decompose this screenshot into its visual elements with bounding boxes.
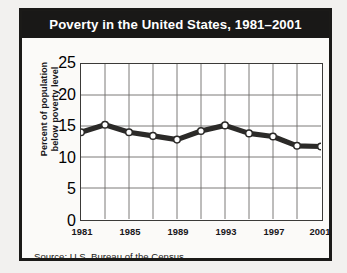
data-point-1985 [126,129,133,136]
chart-title-bar: Poverty in the United States, 1981–2001 [22,11,329,38]
x-tick-label-1997: 1997 [264,226,285,237]
data-point-1983 [102,122,109,129]
plot-svg [81,64,321,219]
source-note: Source: U.S. Bureau of the Census [34,251,184,262]
y-tick-label-20: 20 [52,89,76,101]
data-point-1991 [198,128,205,135]
x-tick-label-2001: 2001 [310,226,331,237]
x-axis-tick-labels: 1981 1985 1989 1993 1997 2001 [80,226,323,240]
y-axis-title-line-1: Percent of population [39,44,50,174]
chart-frame: Poverty in the United States, 1981–2001 … [19,8,332,261]
x-tick-label-1985: 1985 [120,226,141,237]
data-point-1989 [174,136,181,143]
page-title: Poverty in the United States, 1981–2001 [49,17,301,32]
data-point-1995 [246,130,253,137]
plot-area [80,63,323,221]
x-tick-label-1993: 1993 [216,226,237,237]
poverty-chart-figure: Poverty in the United States, 1981–2001 … [0,0,347,273]
gridlines-vertical [105,64,297,219]
data-point-1981 [81,129,84,136]
data-point-1997 [270,133,277,140]
chart-body: Percent of population below poverty leve… [22,38,329,258]
data-point-1999 [294,143,301,150]
data-point-2001 [318,143,321,150]
data-point-1993 [222,122,229,129]
y-tick-label-15: 15 [52,120,76,132]
x-tick-label-1981: 1981 [72,226,93,237]
data-point-1987 [150,133,157,140]
x-tick-label-1989: 1989 [168,226,189,237]
y-tick-label-5: 5 [52,183,76,195]
y-tick-label-25: 25 [52,57,76,69]
y-tick-label-10: 10 [52,152,76,164]
y-axis-tick-labels: 0 5 10 15 20 25 [52,63,76,221]
